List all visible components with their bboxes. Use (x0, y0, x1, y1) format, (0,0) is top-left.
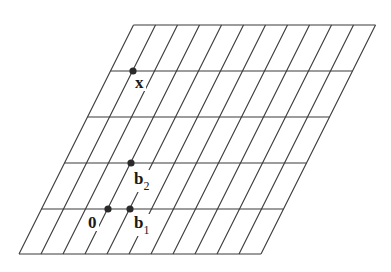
lattice-point-b2 (127, 159, 134, 166)
lattice-point-x (129, 67, 136, 74)
lattice-column-line (261, 25, 376, 254)
lattice-point-origin (104, 205, 111, 212)
lattice-column-line (239, 25, 354, 254)
lattice-point-b1 (126, 205, 133, 212)
lattice-diagram: 0b1b2x Lattice with basis vectors (0, 0, 391, 272)
lattice-column-line (217, 25, 332, 254)
lattice-column-line (195, 25, 310, 254)
lattice-column-line (173, 25, 288, 254)
lattice-column-line (107, 25, 222, 254)
lattice-grid (19, 25, 376, 254)
lattice-canvas: 0b1b2x (0, 0, 391, 272)
lattice-column-line (151, 25, 266, 254)
lattice-column-line (19, 25, 134, 254)
point-label-origin: 0 (88, 213, 97, 232)
lattice-column-line (63, 25, 178, 254)
point-label-x: x (135, 73, 144, 92)
